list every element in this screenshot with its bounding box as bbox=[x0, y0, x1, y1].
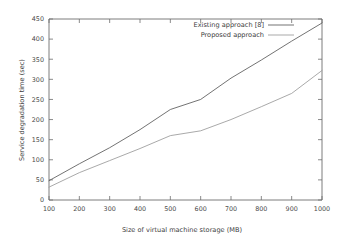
x-axis-title: Size of virtual machine storage (MB) bbox=[122, 226, 242, 234]
y-tick-label: 200 bbox=[32, 116, 44, 124]
legend-label-proposed-approach: Proposed approach bbox=[201, 31, 264, 39]
x-tick-label: 500 bbox=[164, 205, 176, 213]
y-tick-label: 150 bbox=[32, 136, 44, 144]
chart-figure: 050100150200250300350400450 100200300400… bbox=[0, 0, 356, 242]
y-tick-label: 250 bbox=[32, 96, 44, 104]
y-tick-label: 0 bbox=[40, 196, 44, 204]
y-tick-label: 100 bbox=[32, 156, 44, 164]
x-tick-label: 800 bbox=[255, 205, 267, 213]
x-tick-label: 900 bbox=[286, 205, 298, 213]
y-tick-label: 350 bbox=[32, 56, 44, 64]
y-tick-label: 400 bbox=[32, 35, 44, 43]
legend-label-existing-approach: Existing approach [8] bbox=[193, 21, 264, 29]
y-tick-label: 50 bbox=[36, 176, 44, 184]
y-tick-label: 450 bbox=[32, 15, 44, 23]
y-axis-title: Service degradation time (sec) bbox=[18, 59, 26, 161]
x-tick-label: 300 bbox=[104, 205, 116, 213]
line-chart: 050100150200250300350400450 100200300400… bbox=[0, 0, 356, 242]
y-tick-label: 300 bbox=[32, 76, 44, 84]
x-tick-label: 700 bbox=[225, 205, 237, 213]
x-tick-label: 1000 bbox=[314, 205, 330, 213]
x-tick-label: 200 bbox=[73, 205, 85, 213]
x-tick-label: 100 bbox=[43, 205, 55, 213]
x-tick-label: 400 bbox=[134, 205, 146, 213]
x-tick-label: 600 bbox=[195, 205, 207, 213]
